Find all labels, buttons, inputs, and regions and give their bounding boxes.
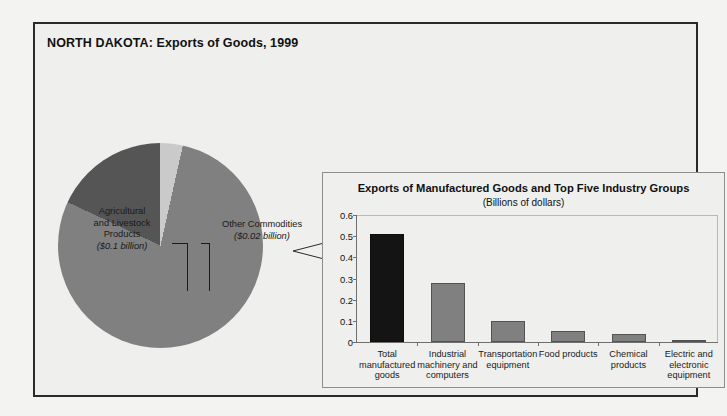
bar — [551, 331, 585, 342]
x-axis-category-label-line: Total — [357, 349, 417, 360]
x-axis-category-label-line: electronic — [659, 360, 719, 371]
x-axis-category-label-line: manufactured — [357, 360, 417, 371]
bar — [370, 234, 404, 342]
x-axis-category-label-line: Food products — [538, 349, 598, 360]
leader-line-agricultural — [172, 243, 188, 244]
bar-chart-panel: Exports of Manufactured Goods and Top Fi… — [322, 172, 725, 388]
x-axis-category-label-line: equipment — [478, 360, 538, 371]
leader-line-other-vertical — [209, 243, 210, 291]
x-axis-tick-mark — [538, 342, 539, 346]
x-axis-tick-mark — [659, 342, 660, 346]
x-axis-category-label-line: Transportation — [478, 349, 538, 360]
x-axis-category-label-line: goods — [357, 370, 417, 381]
pie-label-agricultural-value: ($0.1 billion) — [97, 241, 148, 251]
y-axis-tick-label: 0.3 — [340, 273, 353, 284]
x-axis-category-label-line: products — [598, 360, 658, 371]
x-axis-category-label-line: Chemical — [598, 349, 658, 360]
x-axis-tick-mark — [478, 342, 479, 346]
x-axis-category-label: Electric andelectronicequipment — [659, 349, 719, 381]
figure-root: NORTH DAKOTA: Exports of Goods, 1999 Agr… — [0, 0, 727, 416]
bar — [491, 321, 525, 342]
bar-series — [357, 215, 717, 342]
y-axis-tick-label: 0.1 — [340, 315, 353, 326]
bar-chart-title: Exports of Manufactured Goods and Top Fi… — [323, 182, 724, 194]
x-axis-category-label-line: Industrial — [417, 349, 477, 360]
x-axis-category-label: Transportationequipment — [478, 349, 538, 370]
x-axis-category-label: Chemicalproducts — [598, 349, 658, 370]
pie-label-agricultural-line3: Products — [76, 229, 168, 241]
x-axis-tick-mark — [598, 342, 599, 346]
page-title: NORTH DAKOTA: Exports of Goods, 1999 — [47, 36, 298, 50]
pie-label-other-value: ($0.02 billion) — [234, 231, 290, 241]
pie-chart: Agricultural and Livestock Products ($0.… — [58, 143, 268, 353]
figure-frame: NORTH DAKOTA: Exports of Goods, 1999 Agr… — [33, 22, 698, 397]
bar — [431, 283, 465, 342]
x-axis-category-label-line: Electric and — [659, 349, 719, 360]
y-axis-tick-label: 0.2 — [340, 294, 353, 305]
y-axis-tick-mark — [353, 342, 357, 343]
x-axis-tick-mark — [417, 342, 418, 346]
x-axis-category-label: Food products — [538, 349, 598, 360]
bar — [612, 334, 646, 342]
bar-chart-subtitle: (Billions of dollars) — [323, 197, 724, 208]
pie-label-agricultural-line2: and Livestock — [76, 218, 168, 230]
pie-label-agricultural-line1: Agricultural — [76, 206, 168, 218]
x-axis-category-label-line: equipment — [659, 370, 719, 381]
y-axis-tick-label: 0.5 — [340, 231, 353, 242]
x-axis-category-label: Totalmanufacturedgoods — [357, 349, 417, 381]
bar — [672, 340, 706, 342]
pie-label-agricultural: Agricultural and Livestock Products ($0.… — [76, 206, 168, 252]
x-axis-category-label-line: machinery and — [417, 360, 477, 371]
y-axis-tick-label: 0.6 — [340, 210, 353, 221]
x-axis-line — [356, 342, 718, 343]
leader-line-agricultural-vertical — [187, 243, 188, 291]
y-axis-tick-label: 0.4 — [340, 252, 353, 263]
x-axis-category-label: Industrialmachinery andcomputers — [417, 349, 477, 381]
x-axis-category-label-line: computers — [417, 370, 477, 381]
